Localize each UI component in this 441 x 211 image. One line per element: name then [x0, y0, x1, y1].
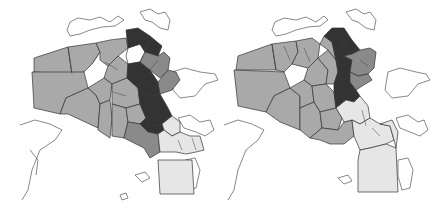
- coastline: [120, 193, 128, 200]
- sector-medium: [272, 41, 298, 72]
- coastline: [346, 9, 376, 30]
- coastline: [385, 68, 430, 98]
- sector-medium: [236, 44, 276, 70]
- coastline: [178, 115, 214, 136]
- map-right: [220, 0, 441, 211]
- map-left: [0, 0, 220, 211]
- coastline: [338, 175, 352, 184]
- sectors: [32, 28, 204, 194]
- sector-medium: [34, 47, 72, 74]
- coastline: [398, 158, 413, 190]
- sector-light: [358, 144, 398, 192]
- sector-medium: [98, 100, 112, 138]
- coastline: [272, 16, 328, 36]
- sector-light: [158, 130, 204, 154]
- coastline: [172, 68, 218, 98]
- sector-light: [158, 160, 194, 194]
- coastline: [20, 120, 62, 200]
- sector-medium: [68, 43, 100, 74]
- coastline: [135, 172, 150, 182]
- coastline: [396, 115, 428, 136]
- coastline: [224, 120, 264, 200]
- coastline: [140, 9, 170, 30]
- figure: [0, 0, 441, 211]
- sectors: [234, 28, 398, 192]
- coastline: [67, 16, 124, 36]
